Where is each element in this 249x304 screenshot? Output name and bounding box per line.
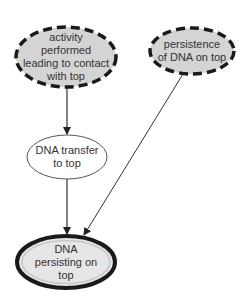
node-persistence-label: persistence of DNA on top xyxy=(150,28,234,74)
node-activity-label: activity performed leading to contact wi… xyxy=(16,28,116,86)
node-persisting-label: DNA persisting on top xyxy=(17,236,115,288)
node-transfer-label: DNA transfer to top xyxy=(27,135,107,179)
